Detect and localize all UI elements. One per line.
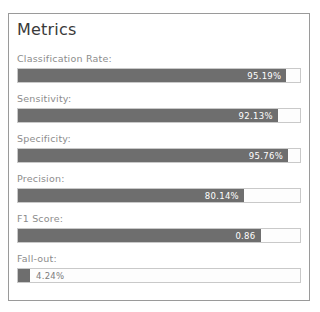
- metric-label: Sensitivity:: [17, 92, 301, 105]
- metric-label: Classification Rate:: [17, 52, 301, 65]
- metric-value: 80.14%: [205, 189, 239, 202]
- metric-label: Fall-out:: [17, 252, 301, 265]
- metric-value: 92.13%: [239, 109, 273, 122]
- metric-value: 95.19%: [247, 69, 281, 82]
- metric-row: Fall-out:4.24%: [17, 252, 301, 283]
- metric-progress-bar: 4.24%: [17, 268, 301, 283]
- metric-value: 4.24%: [36, 269, 65, 282]
- metric-row: Specificity:95.76%: [17, 132, 301, 163]
- metric-value: 95.76%: [249, 149, 283, 162]
- metric-value: 0.86: [235, 229, 255, 242]
- metrics-screen: Metrics Classification Rate:95.19%Sensit…: [0, 0, 320, 312]
- metric-progress-fill: [18, 149, 288, 162]
- metric-progress-bar: 0.86: [17, 228, 301, 243]
- metric-list: Classification Rate:95.19%Sensitivity:92…: [9, 39, 309, 283]
- metric-progress-bar: 92.13%: [17, 108, 301, 123]
- metric-progress-fill: [18, 269, 30, 282]
- metric-progress-bar: 80.14%: [17, 188, 301, 203]
- metric-label: F1 Score:: [17, 212, 301, 225]
- page-title: Metrics: [9, 14, 309, 39]
- metric-row: F1 Score:0.86: [17, 212, 301, 243]
- metric-progress-fill: [18, 69, 286, 82]
- metric-row: Precision:80.14%: [17, 172, 301, 203]
- metric-row: Classification Rate:95.19%: [17, 52, 301, 83]
- metric-label: Specificity:: [17, 132, 301, 145]
- metric-progress-bar: 95.19%: [17, 68, 301, 83]
- metric-progress-fill: [18, 229, 261, 242]
- metrics-panel: Metrics Classification Rate:95.19%Sensit…: [8, 13, 310, 301]
- metric-progress-bar: 95.76%: [17, 148, 301, 163]
- metric-row: Sensitivity:92.13%: [17, 92, 301, 123]
- metric-label: Precision:: [17, 172, 301, 185]
